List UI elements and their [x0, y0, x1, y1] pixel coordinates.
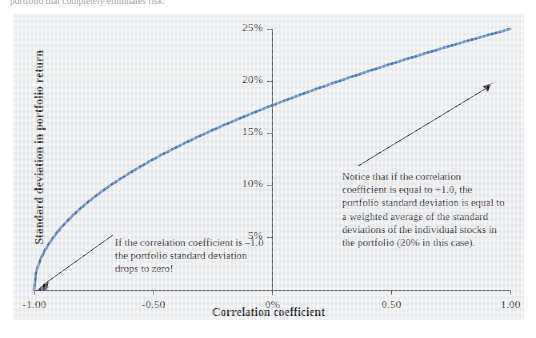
- x-axis-title: Correlation coefficient: [13, 306, 524, 318]
- annotation-arrow-left: [36, 235, 113, 291]
- chart-curve-svg: [13, 14, 524, 320]
- y-axis-title: Standard deviation in portfolio return: [33, 50, 45, 245]
- annotation-arrow-right: [358, 82, 496, 166]
- plot-area: 25% 20% 15% 10% 5% -1.00 -0.50 0% 0.50 1…: [13, 14, 524, 320]
- figure-panel: 25% 20% 15% 10% 5% -1.00 -0.50 0% 0.50 1…: [13, 14, 524, 320]
- annotation-right-text: Notice that if the correlation coefficie…: [342, 170, 506, 249]
- portfolio-sd-curve: [34, 29, 510, 290]
- above-figure-caption-text: portfolio that completely eliminates ris…: [10, 0, 310, 6]
- annotation-left-text: If the correlation coefficient is –1.0 t…: [115, 236, 267, 276]
